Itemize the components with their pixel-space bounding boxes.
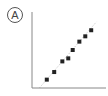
scatter-plot <box>0 0 108 96</box>
data-point <box>66 56 70 60</box>
data-point <box>71 48 75 52</box>
data-point <box>60 59 64 63</box>
data-point <box>83 34 87 38</box>
data-point <box>89 28 93 32</box>
data-point <box>77 40 81 44</box>
data-point <box>52 70 56 74</box>
data-point <box>45 78 49 82</box>
